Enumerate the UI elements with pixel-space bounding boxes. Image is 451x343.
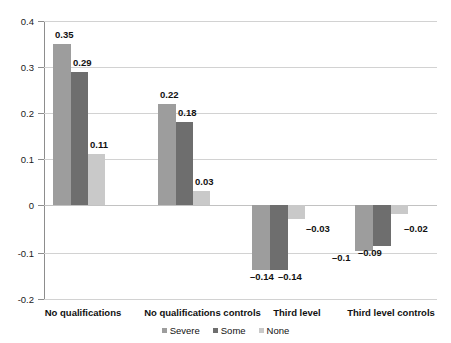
legend-item-some[interactable]: Some — [213, 326, 246, 336]
gridline — [44, 21, 437, 22]
chart-legend: Severe Some None — [0, 326, 451, 336]
data-label-some-third-level: –0.14 — [278, 272, 302, 282]
bar-severe-no-qualifications-controls[interactable] — [158, 104, 176, 205]
y-tick-label: 0.4 — [0, 17, 34, 27]
data-label-none-no-qualifications: 0.11 — [90, 140, 108, 150]
data-label-some-no-qualifications: 0.29 — [73, 58, 92, 68]
data-label-severe-third-level: –0.14 — [250, 272, 274, 282]
bar-some-third-level[interactable] — [270, 205, 288, 270]
bar-some-third-level-controls[interactable] — [373, 205, 391, 246]
data-label-some-third-level-controls: –0.09 — [358, 248, 382, 258]
bar-some-no-qualifications-controls[interactable] — [176, 122, 193, 205]
data-label-some-no-qualifications-controls: 0.18 — [178, 108, 197, 118]
bar-severe-third-level-controls[interactable] — [355, 205, 373, 251]
legend-label: Severe — [170, 326, 200, 336]
data-label-none-third-level: –0.03 — [306, 224, 330, 234]
legend-label: Some — [221, 326, 246, 336]
bar-severe-no-qualifications[interactable] — [53, 44, 71, 205]
bar-none-no-qualifications-controls[interactable] — [193, 191, 210, 205]
bar-chart: 0.4 0.3 0.2 0.1 0 -0.1 -0.2 — [0, 0, 451, 343]
data-label-severe-third-level-controls: –0.1 — [332, 253, 351, 263]
data-label-severe-no-qualifications: 0.35 — [55, 30, 74, 40]
y-tick-label: -0.2 — [0, 295, 34, 305]
bar-some-no-qualifications[interactable] — [71, 72, 88, 205]
y-tick-label: 0.2 — [0, 109, 34, 119]
y-tick-label: 0 — [0, 201, 34, 211]
bar-severe-third-level[interactable] — [252, 205, 270, 270]
legend-swatch-icon — [213, 328, 218, 333]
y-tick-label: -0.1 — [0, 249, 34, 259]
gridline — [44, 299, 437, 300]
legend-swatch-icon — [259, 328, 264, 333]
data-label-none-no-qualifications-controls: 0.03 — [195, 177, 214, 187]
legend-item-severe[interactable]: Severe — [162, 326, 200, 336]
y-tick-label: 0.1 — [0, 155, 34, 165]
x-axis-category-label: Third level controls — [311, 308, 451, 318]
bar-none-no-qualifications[interactable] — [88, 154, 105, 205]
bar-none-third-level-controls[interactable] — [391, 205, 408, 214]
legend-swatch-icon — [162, 328, 167, 333]
legend-label: None — [267, 326, 290, 336]
gridline — [44, 113, 437, 114]
data-label-severe-no-qualifications-controls: 0.22 — [160, 90, 179, 100]
gridline — [44, 67, 437, 68]
y-tick-label: 0.3 — [0, 63, 34, 73]
legend-item-none[interactable]: None — [259, 326, 290, 336]
data-label-none-third-level-controls: –0.02 — [404, 224, 428, 234]
bar-none-third-level[interactable] — [288, 205, 305, 219]
